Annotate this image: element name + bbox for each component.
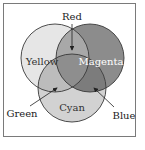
label-magenta: Magenta (79, 56, 124, 67)
label-blue: Blue (113, 110, 136, 121)
label-red: Red (62, 11, 82, 22)
label-cyan: Cyan (59, 102, 85, 113)
venn-diagram: Yellow Magenta Cyan Red Green Blue (0, 0, 145, 150)
label-yellow: Yellow (25, 56, 59, 67)
label-green: Green (6, 108, 38, 119)
